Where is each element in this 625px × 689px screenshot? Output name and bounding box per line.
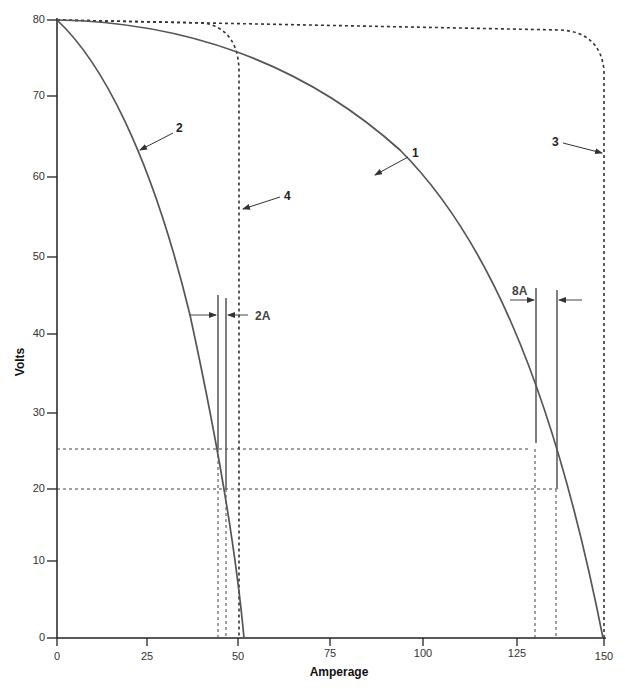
x-tick-125: 125 xyxy=(508,647,526,659)
y-tick-labels: 0 10 20 30 40 50 60 70 80 xyxy=(33,13,45,643)
label-curve-2: 2 xyxy=(176,121,183,135)
x-tick-25: 25 xyxy=(141,650,153,662)
x-tick-100: 100 xyxy=(414,647,432,659)
arrow-curve-2 xyxy=(140,133,173,150)
x-axis-title: Amperage xyxy=(310,665,369,679)
y-tick-20: 20 xyxy=(33,482,45,494)
arrow-curve-1 xyxy=(375,157,408,175)
y-tick-0: 0 xyxy=(39,631,45,643)
label-8a: 8A xyxy=(512,284,528,298)
y-tick-50: 50 xyxy=(33,250,45,262)
y-tick-70: 70 xyxy=(33,89,45,101)
x-tick-0: 0 xyxy=(54,650,60,662)
curve-2 xyxy=(57,20,244,638)
arrow-curve-4 xyxy=(243,197,280,209)
y-tick-80: 80 xyxy=(33,13,45,25)
curve-1 xyxy=(57,20,603,638)
x-ticks xyxy=(57,638,604,646)
y-ticks xyxy=(47,20,57,638)
y-tick-10: 10 xyxy=(33,554,45,566)
y-tick-40: 40 xyxy=(33,327,45,339)
x-tick-75: 75 xyxy=(324,647,336,659)
label-2a: 2A xyxy=(255,309,271,323)
y-tick-30: 30 xyxy=(33,406,45,418)
x-tick-50: 50 xyxy=(232,650,244,662)
label-curve-3: 3 xyxy=(552,135,559,149)
drop-lines xyxy=(218,449,556,638)
label-curve-1: 1 xyxy=(412,146,419,160)
volt-amp-chart: 0 10 20 30 40 50 60 70 80 0 25 50 75 100… xyxy=(0,0,625,689)
y-tick-60: 60 xyxy=(33,170,45,182)
x-tick-labels: 0 25 50 75 100 125 150 xyxy=(54,647,613,662)
curve-4 xyxy=(57,20,239,638)
arrow-curve-3 xyxy=(563,143,602,153)
label-curve-4: 4 xyxy=(284,189,291,203)
x-tick-150: 150 xyxy=(595,650,613,662)
curve-3 xyxy=(57,20,604,638)
y-axis-title: Volts xyxy=(13,347,27,376)
